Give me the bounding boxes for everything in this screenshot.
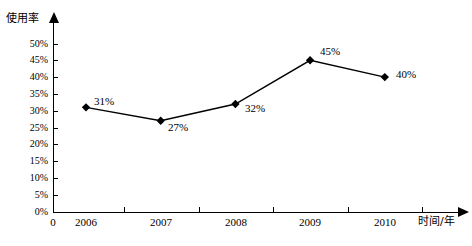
data-point-2009 [306,56,314,64]
data-point-2006 [82,103,90,111]
data-point-2008 [231,100,239,108]
series-plot [0,0,472,246]
data-label-2008: 32% [245,102,265,114]
series-line [86,60,385,120]
data-label-2010: 40% [396,68,416,80]
line-chart: 使用率 时间/年 0% 5% 10% 15% 20% 25% 30% 35% 4… [0,0,472,246]
data-label-2009: 45% [320,45,340,57]
data-point-2010 [381,73,389,81]
data-label-2007: 27% [168,121,188,133]
data-label-2006: 31% [94,95,114,107]
data-point-2007 [157,117,165,125]
